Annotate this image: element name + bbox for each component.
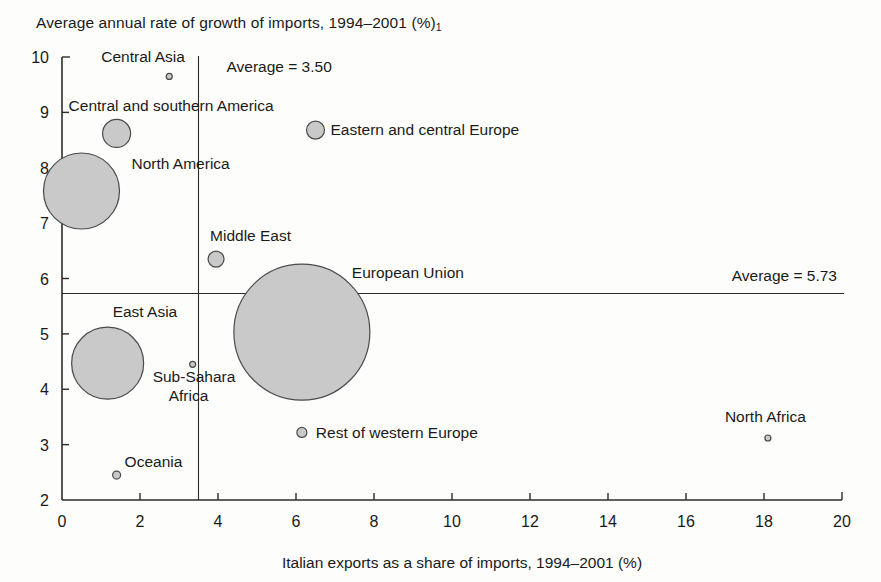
axis-titles-group: Italian exports as a share of imports, 1…: [282, 554, 642, 571]
y-tick-label: 3: [40, 437, 49, 454]
bubble-marker[interactable]: [72, 327, 144, 399]
bubble-marker[interactable]: [103, 119, 131, 147]
y-tick-label: 2: [40, 492, 49, 509]
bubble-chart-plot: 234567891002468101214161820 Average = 3.…: [0, 0, 881, 582]
x-tick-label: 2: [136, 513, 145, 530]
x-axis-title: Italian exports as a share of imports, 1…: [282, 554, 642, 571]
x-tick-label: 10: [443, 513, 461, 530]
series-label: East Asia: [113, 303, 178, 320]
bubble-marker[interactable]: [234, 264, 370, 400]
series-labels-group: Central AsiaCentral and southern America…: [69, 48, 807, 470]
bubble-marker[interactable]: [297, 427, 307, 437]
series-label: European Union: [352, 264, 464, 281]
x-tick-label: 20: [833, 513, 851, 530]
x-tick-label: 0: [58, 513, 67, 530]
vertical-average-label: Average = 3.50: [227, 58, 333, 75]
bubble-marker[interactable]: [765, 435, 771, 441]
bubble-marker[interactable]: [307, 121, 325, 139]
series-label: North America: [132, 155, 231, 172]
x-tick-label: 12: [521, 513, 539, 530]
x-tick-label: 18: [755, 513, 773, 530]
series-label: Central Asia: [101, 48, 185, 65]
x-tick-label: 16: [677, 513, 695, 530]
y-tick-label: 5: [40, 326, 49, 343]
y-tick-label: 7: [40, 215, 49, 232]
series-label: North Africa: [725, 408, 806, 425]
horizontal-average-label: Average = 5.73: [732, 267, 837, 284]
series-label: Sub-SaharaAfrica: [153, 368, 236, 404]
bubble-marker[interactable]: [44, 153, 120, 229]
series-label: Eastern and central Europe: [331, 121, 520, 138]
series-label: Rest of western Europe: [316, 424, 478, 441]
x-tick-label: 6: [292, 513, 301, 530]
x-tick-label: 8: [370, 513, 379, 530]
bubble-marker[interactable]: [208, 251, 224, 267]
y-tick-label: 6: [40, 271, 49, 288]
y-tick-label: 9: [40, 104, 49, 121]
series-label: Central and southern America: [69, 97, 274, 114]
x-tick-label: 4: [214, 513, 223, 530]
series-label: Oceania: [125, 453, 183, 470]
y-tick-label: 4: [40, 381, 49, 398]
chart-page: Average annual rate of growth of imports…: [0, 0, 881, 582]
bubble-marker[interactable]: [113, 471, 121, 479]
x-tick-label: 14: [599, 513, 617, 530]
bubble-marker[interactable]: [190, 361, 196, 367]
series-label: Middle East: [210, 227, 292, 244]
y-tick-label: 10: [31, 49, 49, 66]
bubble-marker[interactable]: [166, 73, 172, 79]
